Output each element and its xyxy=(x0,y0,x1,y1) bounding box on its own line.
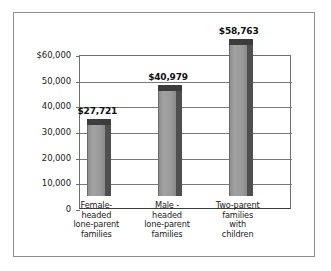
bar[interactable] xyxy=(158,85,182,196)
y-axis-tick-label: 30,000 xyxy=(15,127,71,137)
y-axis-tick-mark xyxy=(76,159,80,160)
bar-side-face xyxy=(105,125,111,196)
bar-top-face xyxy=(158,85,182,91)
bar-side-face xyxy=(176,91,182,196)
gridline xyxy=(80,133,292,134)
y-axis-tick-label: 10,000 xyxy=(15,178,71,188)
bar-front-face xyxy=(158,91,176,196)
bar-value-label: $27,721 xyxy=(62,106,132,116)
y-axis-tick-mark xyxy=(76,82,80,83)
bar[interactable] xyxy=(87,119,111,196)
bar-front-face xyxy=(229,45,247,196)
y-axis-tick-label: $60,000 xyxy=(15,50,71,60)
gridline xyxy=(80,159,292,160)
bar-top-face xyxy=(87,119,111,125)
y-axis-tick-mark xyxy=(76,56,80,57)
y-axis-tick-label: 50,000 xyxy=(15,76,71,86)
bar-top-face xyxy=(229,39,253,45)
bar-value-label: $58,763 xyxy=(204,26,274,36)
chart-outer-frame: $60,00050,00040,00030,00020,00010,0000 $… xyxy=(13,12,315,257)
y-axis-tick-label: 20,000 xyxy=(15,153,71,163)
x-axis-category-label: Two-parentfamilieswithchildren xyxy=(196,201,280,239)
bar-side-face xyxy=(247,45,253,196)
bar-front-face xyxy=(87,125,105,196)
x-axis-category-label-line: children xyxy=(196,230,280,240)
y-axis-tick-mark xyxy=(76,184,80,185)
gridline xyxy=(80,184,292,185)
bar[interactable] xyxy=(229,39,253,196)
bar-value-label: $40,979 xyxy=(133,72,203,82)
y-axis-tick-labels: $60,00050,00040,00030,00020,00010,0000 xyxy=(17,55,75,209)
chart-figure: $60,00050,00040,00030,00020,00010,0000 $… xyxy=(0,0,331,271)
y-axis-tick-mark xyxy=(76,133,80,134)
